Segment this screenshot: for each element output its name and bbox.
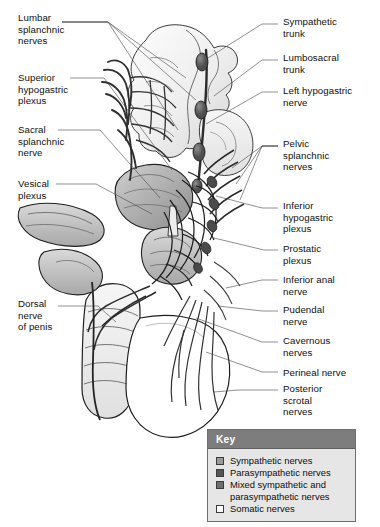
label-lumbosacral-trunk: Lumbosacral trunk xyxy=(283,52,375,75)
legend-item-parasympathetic-nerves: Parasympathetic nerves xyxy=(216,467,355,478)
iliac-bone-group xyxy=(199,110,253,176)
ganglion xyxy=(195,101,207,119)
legend-title: Key xyxy=(216,434,235,445)
legend-label-somatic: Somatic nerves xyxy=(230,503,295,514)
figure-canvas: Lumbar splanchnic nerves Superior hypoga… xyxy=(0,0,380,527)
inferior-anal-branches xyxy=(204,262,240,320)
legend-swatch-mixed xyxy=(216,481,224,489)
label-cavernous-nerves: Cavernous nerves xyxy=(283,335,367,358)
label-sacral-splanchnic-nerve: Sacral splanchnic nerve xyxy=(18,124,92,159)
legend-header: Key xyxy=(208,430,355,449)
legend-swatch-sympathetic xyxy=(216,457,224,465)
label-sympathetic-trunk: Sympathetic trunk xyxy=(283,16,375,39)
legend-item-somatic-nerves: Somatic nerves xyxy=(216,503,355,514)
legend-key-box: Key Sympathetic nerves Parasympathetic n… xyxy=(207,429,356,522)
label-superior-hypogastric-plexus: Superior hypogastric plexus xyxy=(18,72,98,107)
ganglion xyxy=(196,53,208,71)
legend-swatch-somatic xyxy=(216,505,224,513)
pubic-ramus-group xyxy=(18,203,104,246)
label-posterior-scrotal-nerves: Posterior scrotal nerves xyxy=(283,383,359,418)
legend-swatch-parasympathetic xyxy=(216,469,224,477)
ganglion xyxy=(193,143,205,161)
legend-items: Sympathetic nerves Parasympathetic nerve… xyxy=(208,449,355,514)
label-pudendal-nerve: Pudendal nerve xyxy=(283,304,365,327)
label-perineal-nerve: Perineal nerve xyxy=(283,367,377,379)
label-inferior-anal-nerve: Inferior anal nerve xyxy=(283,274,371,297)
legend-item-mixed-nerves: Mixed sympathetic and parasympathetic ne… xyxy=(216,479,355,501)
label-prostatic-plexus: Prostatic plexus xyxy=(283,243,365,266)
label-left-hypogastric-nerve: Left hypogastric nerve xyxy=(283,85,379,108)
label-lumbar-splanchnic-nerves: Lumbar splanchnic nerves xyxy=(18,12,88,47)
legend-item-sympathetic-nerves: Sympathetic nerves xyxy=(216,455,355,466)
scrotum-group xyxy=(126,315,230,437)
label-dorsal-nerve-of-penis: Dorsal nerve of penis xyxy=(18,298,88,333)
legend-label-sympathetic: Sympathetic nerves xyxy=(230,455,312,466)
legend-label-mixed: Mixed sympathetic and parasympathetic ne… xyxy=(230,479,330,501)
label-pelvic-splanchnic-nerves: Pelvic splanchnic nerves xyxy=(283,138,363,173)
label-inferior-hypogastric-plexus: Inferior hypogastric plexus xyxy=(283,200,365,235)
legend-label-parasympathetic: Parasympathetic nerves xyxy=(230,467,331,478)
label-vesical-plexus: Vesical plexus xyxy=(18,178,88,201)
